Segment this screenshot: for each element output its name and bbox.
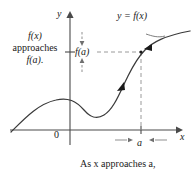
approach-arrow-head-right [149,138,154,142]
y-value-label-fa: f(a) [75,46,89,58]
curve-label-leader [146,34,165,37]
x-axis-label: x [180,131,184,143]
origin-label: 0 [54,129,59,141]
graph-canvas [0,0,193,176]
approach-annotation-line2: approaches [4,42,66,54]
y-axis-arrowhead [66,11,73,18]
point-a-fa [139,50,142,53]
figure-caption: As x approaches a, [80,158,156,170]
approach-annotation: f(x) approaches f(a). [4,30,66,65]
approach-annotation-line3: f(a). [4,54,66,66]
curve-approach-arrow-left [117,82,125,91]
approach-arrow-head-below [80,58,85,63]
x-value-label-a: a [137,137,142,149]
limit-definition-figure: y x 0 y = f(x) f(a) a f(x) approaches f(… [0,0,193,176]
y-axis-label: y [57,8,61,20]
function-label: y = f(x) [117,10,147,22]
approach-arrow-head-left [128,138,133,142]
approach-annotation-line1: f(x) [4,30,66,42]
